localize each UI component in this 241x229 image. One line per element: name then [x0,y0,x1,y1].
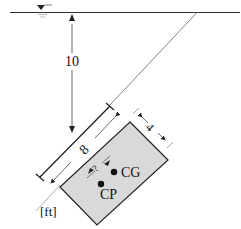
cp-label: CP [100,187,117,202]
cg-label: CG [121,165,140,180]
width-label: 4 [143,120,157,134]
diagram-canvas: 10 8 4 ? CG CP [ft] [0,0,241,229]
depth-label: 10 [65,54,79,69]
units-label: [ft] [40,204,57,219]
depth-dimension: 10 [65,14,79,133]
length-label: 8 [76,142,92,158]
free-surface-icon [37,5,52,17]
